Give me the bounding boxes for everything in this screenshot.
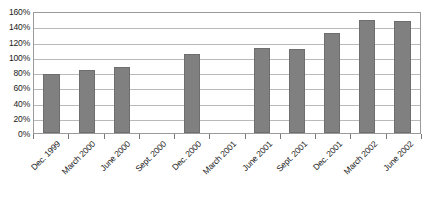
x-tick-label: June 2000 [99, 139, 133, 173]
y-tick-label: 20% [14, 115, 30, 124]
bar [114, 67, 130, 133]
bar-slot [350, 13, 385, 133]
x-tick-label: Sept. 2000 [133, 139, 168, 174]
bar-slot [209, 13, 244, 133]
x-axis: Dec. 1999March 2000June 2000Sept. 2000De… [33, 139, 421, 197]
y-tick-label: 60% [14, 84, 30, 93]
bar [359, 20, 375, 133]
x-tick-label: Sept. 2001 [274, 139, 309, 174]
x-tick [421, 134, 422, 139]
bar [324, 33, 340, 133]
x-tick-label: Dec. 2000 [170, 139, 203, 172]
bar-slot [34, 13, 69, 133]
bar [394, 21, 410, 133]
x-tick-label: June 2002 [381, 139, 415, 173]
bar-slot [315, 13, 350, 133]
bar [289, 49, 305, 133]
y-tick-label: 40% [14, 99, 30, 108]
bar [254, 48, 270, 133]
x-tick-label: Dec. 2001 [311, 139, 344, 172]
bar-slot [174, 13, 209, 133]
bar-slot [104, 13, 139, 133]
bar-slot [245, 13, 280, 133]
bar-chart: 0%20%40%60%80%100%120%140%160% Dec. 1999… [0, 0, 425, 197]
bar [43, 74, 59, 133]
x-tick-label: March 2002 [342, 139, 379, 176]
x-tick-label: Dec. 1999 [29, 139, 62, 172]
bars [34, 13, 420, 133]
x-tick-label: June 2001 [240, 139, 274, 173]
x-tick-label: March 2000 [60, 139, 97, 176]
y-tick-label: 140% [9, 23, 30, 32]
bar-slot [139, 13, 174, 133]
y-axis: 0%20%40%60%80%100%120%140%160% [0, 0, 32, 197]
y-tick-label: 120% [9, 38, 30, 47]
bar-slot [385, 13, 420, 133]
x-tick-label: March 2001 [201, 139, 238, 176]
bar [79, 70, 95, 133]
y-tick-label: 160% [9, 8, 30, 17]
y-tick-label: 0% [18, 130, 30, 139]
bar [184, 54, 200, 133]
y-tick-label: 80% [14, 69, 30, 78]
y-tick-label: 100% [9, 54, 30, 63]
plot-area [33, 12, 421, 134]
bar-slot [280, 13, 315, 133]
bar-slot [69, 13, 104, 133]
